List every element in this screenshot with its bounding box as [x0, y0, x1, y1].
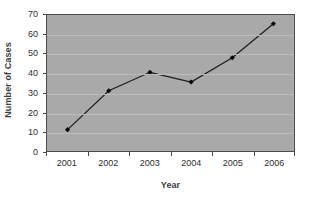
data-point-marker [189, 79, 194, 84]
y-tick-mark [43, 34, 46, 35]
x-tick-mark [129, 152, 130, 156]
y-tick-mark [43, 14, 46, 15]
line-chart: Number of Cases 010203040506070 20012002… [0, 0, 316, 208]
y-tick-label: 50 [28, 48, 38, 58]
x-tick-mark [46, 152, 47, 156]
x-tick-label: 2003 [140, 158, 160, 168]
y-axis-title-label: Number of Cases [3, 42, 13, 118]
x-tick-mark [212, 152, 213, 156]
y-tick-mark [43, 93, 46, 94]
gridline [47, 94, 294, 95]
x-axis-title: Year [46, 180, 295, 190]
y-tick-label: 20 [28, 108, 38, 118]
gridline [47, 54, 294, 55]
plot-area [46, 14, 295, 152]
y-tick-mark [43, 53, 46, 54]
gridline [47, 35, 294, 36]
y-tick-label: 30 [28, 88, 38, 98]
gridline [47, 74, 294, 75]
x-tick-mark [171, 152, 172, 156]
x-tick-mark [294, 152, 295, 156]
x-tick-mark [254, 152, 255, 156]
y-tick-label: 40 [28, 68, 38, 78]
x-tick-label: 2002 [98, 158, 118, 168]
y-axis-tick-labels: 010203040506070 [16, 14, 42, 152]
y-axis-title: Number of Cases [0, 0, 16, 160]
x-axis-tick-labels: 200120022003200420052006 [46, 158, 295, 172]
y-tick-mark [43, 113, 46, 114]
y-tick-mark [43, 73, 46, 74]
gridline [47, 133, 294, 134]
x-tick-label: 2006 [264, 158, 284, 168]
y-tick-label: 0 [33, 147, 38, 157]
y-tick-label: 60 [28, 29, 38, 39]
y-tick-label: 70 [28, 9, 38, 19]
y-tick-label: 10 [28, 127, 38, 137]
x-tick-mark [88, 152, 89, 156]
x-tick-label: 2005 [223, 158, 243, 168]
gridline [47, 114, 294, 115]
x-tick-label: 2004 [181, 158, 201, 168]
x-tick-label: 2001 [57, 158, 77, 168]
y-tick-mark [43, 132, 46, 133]
